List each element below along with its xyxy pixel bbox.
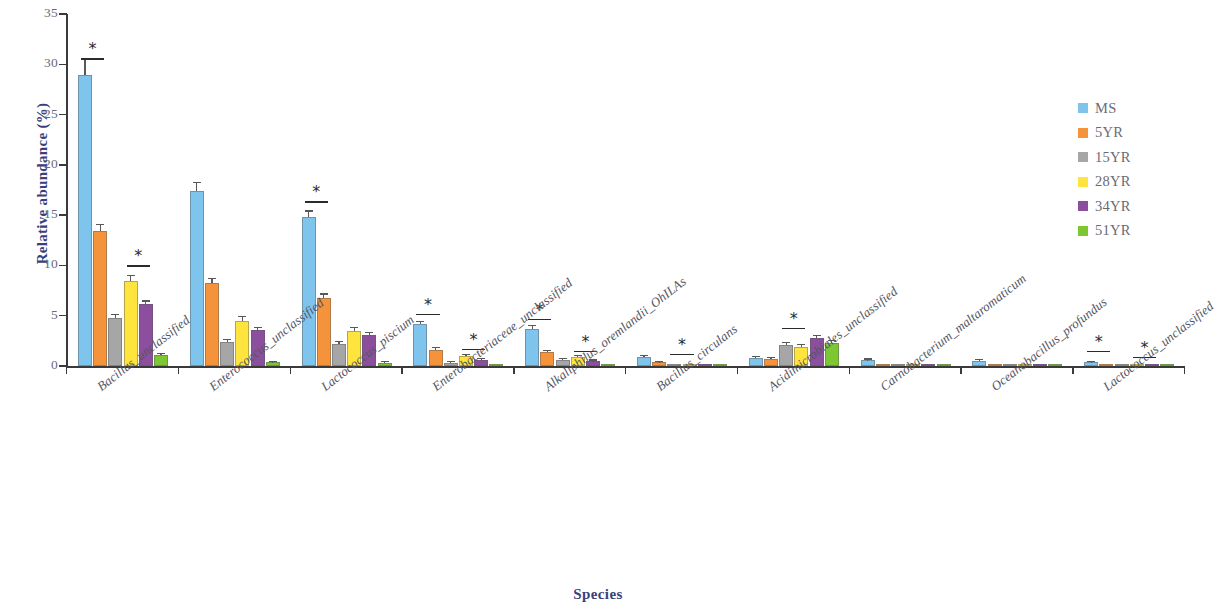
legend-item[interactable]: 28YR bbox=[1078, 170, 1131, 195]
x-axis-title: Species bbox=[0, 586, 1196, 603]
legend-label: 5YR bbox=[1095, 124, 1123, 141]
legend-item[interactable]: 15YR bbox=[1078, 145, 1131, 170]
x-tick bbox=[401, 366, 402, 374]
bar-group bbox=[66, 14, 1184, 366]
y-tick-label: 25 bbox=[18, 106, 58, 122]
legend-color-swatch bbox=[1078, 128, 1088, 138]
significance-asterisk: * bbox=[78, 44, 107, 53]
significance-bracket bbox=[782, 328, 805, 330]
y-tick-label: 15 bbox=[18, 206, 58, 222]
legend-label: 34YR bbox=[1095, 198, 1131, 215]
x-tick bbox=[1072, 366, 1073, 374]
significance-bracket bbox=[416, 314, 439, 316]
legend-item[interactable]: 5YR bbox=[1078, 121, 1131, 146]
legend-color-swatch bbox=[1078, 226, 1088, 236]
significance-marker: * bbox=[302, 187, 331, 203]
significance-marker: * bbox=[78, 44, 107, 60]
x-tick bbox=[513, 366, 514, 374]
significance-asterisk: * bbox=[667, 340, 696, 349]
y-tick-label: 20 bbox=[18, 156, 58, 172]
significance-asterisk: * bbox=[779, 314, 808, 323]
legend-label: 28YR bbox=[1095, 173, 1131, 190]
x-tick bbox=[178, 366, 179, 374]
significance-marker: * bbox=[1084, 337, 1113, 353]
y-tick-label: 5 bbox=[18, 307, 58, 323]
legend-label: 15YR bbox=[1095, 149, 1131, 166]
significance-asterisk: * bbox=[1084, 337, 1113, 346]
y-tick-label: 35 bbox=[18, 5, 58, 21]
significance-bracket bbox=[1087, 351, 1110, 353]
legend-item[interactable]: MS bbox=[1078, 96, 1131, 121]
x-tick bbox=[1184, 366, 1185, 374]
x-tick bbox=[849, 366, 850, 374]
legend-color-swatch bbox=[1078, 201, 1088, 211]
significance-bracket bbox=[81, 58, 104, 60]
significance-asterisk: * bbox=[302, 187, 331, 196]
legend-color-swatch bbox=[1078, 177, 1088, 187]
significance-asterisk: * bbox=[124, 251, 153, 260]
significance-bracket bbox=[127, 265, 150, 267]
legend-item[interactable]: 34YR bbox=[1078, 194, 1131, 219]
y-tick-label: 30 bbox=[18, 55, 58, 71]
x-tick bbox=[290, 366, 291, 374]
legend: MS5YR15YR28YR34YR51YR bbox=[1078, 96, 1131, 243]
x-tick bbox=[625, 366, 626, 374]
x-tick bbox=[737, 366, 738, 374]
bar[interactable] bbox=[1099, 364, 1113, 366]
legend-color-swatch bbox=[1078, 103, 1088, 113]
significance-bracket bbox=[305, 201, 328, 203]
significance-asterisk: * bbox=[413, 300, 442, 309]
y-tick-label: 10 bbox=[18, 256, 58, 272]
y-tick-label: 0 bbox=[18, 357, 58, 373]
bar[interactable] bbox=[1084, 362, 1098, 366]
error-bar bbox=[1091, 362, 1092, 363]
legend-label: MS bbox=[1095, 100, 1117, 117]
plot-area: *********** bbox=[66, 14, 1184, 366]
significance-marker: * bbox=[779, 314, 808, 330]
significance-marker: * bbox=[124, 251, 153, 267]
error-bar-cap bbox=[1087, 361, 1095, 362]
x-tick bbox=[66, 366, 67, 374]
legend-color-swatch bbox=[1078, 152, 1088, 162]
legend-item[interactable]: 51YR bbox=[1078, 219, 1131, 244]
bar[interactable] bbox=[1160, 364, 1174, 366]
legend-label: 51YR bbox=[1095, 222, 1131, 239]
significance-marker: * bbox=[413, 300, 442, 316]
x-tick bbox=[960, 366, 961, 374]
